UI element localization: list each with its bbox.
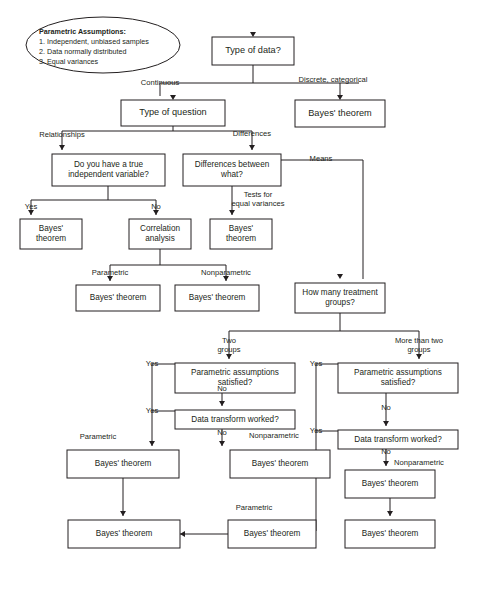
arrowhead (383, 461, 389, 466)
edge-label-nonparametric_two: Nonparametric (249, 431, 299, 440)
assumptions-heading: Parametric Assumptions: (39, 27, 126, 36)
node-data_transform_two: Data transform worked? (175, 410, 295, 429)
edge-label-parametric_final: Parametric (236, 503, 273, 512)
edge-label-more_than_two: More than two (395, 336, 443, 345)
node-label-how_many_groups: How many treatment (302, 288, 378, 297)
node-bayes_final_parametric: Bayes' theorem (228, 520, 316, 548)
arrowhead (219, 401, 225, 406)
node-label-param_assum_more: satisfied? (381, 378, 416, 387)
node-label-differences_between: what? (220, 170, 243, 179)
node-param_assum_two: Parametric assumptionssatisfied? (175, 363, 295, 393)
arrowhead (337, 274, 343, 279)
node-type_of_question: Type of question (121, 100, 225, 126)
node-bayes_corr_parametric: Bayes' theorem (76, 285, 160, 311)
node-bayes_corr_nonparam: Bayes' theorem (175, 285, 259, 311)
node-label-correlation_analysis: analysis (145, 234, 175, 243)
node-bayes_yes_indep: Bayes'theorem (20, 219, 82, 249)
node-label-true_independent_var: Do you have a true (74, 160, 144, 169)
node-how_many_groups: How many treatmentgroups? (295, 283, 385, 313)
edge-label-relationships: Relationships (39, 130, 85, 139)
assumptions-line-2: 2. Data normally distributed (39, 47, 127, 56)
node-bayes_final_left: Bayes' theorem (68, 520, 180, 548)
node-label-bayes_final_parametric: Bayes' theorem (244, 529, 301, 538)
node-label-data_transform_two: Data transform worked? (191, 415, 279, 424)
node-bayes_two_parametric: Bayes' theorem (67, 450, 179, 478)
arrowhead (170, 95, 176, 100)
node-label-type_of_data: Type of data? (225, 45, 281, 55)
arrowhead (383, 421, 389, 426)
edge-label-no_two_trans: No (217, 428, 227, 437)
edge-label-yes_indep: Yes (25, 202, 38, 211)
arrowhead (120, 511, 126, 516)
edge-label-yes_two_trans: Yes (146, 406, 159, 415)
flowchart-root: Type of data?Bayes' theoremType of quest… (0, 0, 479, 596)
node-bayes_discrete: Bayes' theorem (295, 100, 385, 127)
node-bayes_equal_var: Bayes'theorem (210, 219, 272, 249)
arrowhead (180, 531, 185, 537)
edge-label-parametric_corr: Parametric (92, 268, 129, 277)
edge-label-no_indep: No (151, 202, 161, 211)
node-true_independent_var: Do you have a trueindependent variable? (52, 154, 165, 186)
node-label-bayes_corr_parametric: Bayes' theorem (90, 293, 147, 302)
node-label-bayes_yes_indep: theorem (36, 234, 66, 243)
node-label-true_independent_var: independent variable? (68, 170, 149, 179)
edge-label-no_more_param: No (381, 403, 391, 412)
arrowhead (149, 441, 155, 446)
node-bayes_more_nonparam: Bayes' theorem (345, 470, 435, 498)
node-param_assum_more: Parametric assumptionssatisfied? (338, 363, 458, 393)
node-bayes_two_nonparam: Bayes' theorem (230, 450, 330, 478)
edge-label-tests_equal_var: Tests for (244, 190, 273, 199)
edge-label-more_than_two: groups (407, 345, 430, 354)
arrowhead (249, 145, 255, 150)
edge-label-nonparametric_more: Nonparametric (394, 458, 444, 467)
node-label-bayes_two_parametric: Bayes' theorem (95, 459, 152, 468)
edge-label-means: Means (310, 154, 333, 163)
node-label-bayes_final_left: Bayes' theorem (96, 529, 153, 538)
node-bayes_final_posthoc: Bayes' theorem (345, 520, 435, 548)
arrowhead (387, 511, 393, 516)
edge-label-nonparametric_corr: Nonparametric (201, 268, 251, 277)
node-label-bayes_final_posthoc: Bayes' theorem (362, 529, 419, 538)
node-label-data_transform_more: Data transform worked? (354, 435, 442, 444)
edge-label-parametric_two: Parametric (80, 432, 117, 441)
node-label-differences_between: Differences between (195, 160, 270, 169)
node-differences_between: Differences betweenwhat? (183, 154, 281, 186)
node-label-bayes_equal_var: Bayes' (229, 224, 254, 233)
node-label-bayes_corr_nonparam: Bayes' theorem (189, 293, 246, 302)
edge-label-continuous: Continuous (141, 78, 180, 87)
edge-label-no_more_trans: No (381, 447, 391, 456)
node-label-bayes_equal_var: theorem (226, 234, 256, 243)
node-label-how_many_groups: groups? (325, 298, 355, 307)
arrowhead (250, 32, 256, 37)
assumptions-line-3: 3. Equal variances (39, 57, 99, 66)
node-data_transform_more: Data transform worked? (338, 430, 458, 449)
edge-label-differences: Differences (233, 129, 271, 138)
arrowhead (226, 354, 232, 359)
node-type_of_data: Type of data? (212, 37, 294, 65)
edge-label-yes_more_param: Yes (310, 359, 323, 368)
edge-label-yes_two_param: Yes (146, 359, 159, 368)
assumptions-line-1: 1. Independent, unbiased samples (39, 37, 149, 46)
arrowhead (219, 441, 225, 446)
arrowhead (337, 95, 343, 100)
node-label-bayes_more_nonparam: Bayes' theorem (362, 479, 419, 488)
node-label-param_assum_two: Parametric assumptions (191, 368, 279, 377)
edge-label-tests_equal_var: equal variances (231, 199, 284, 208)
node-label-bayes_discrete: Bayes' theorem (308, 108, 372, 118)
node-label-type_of_question: Type of question (139, 107, 206, 117)
node-label-correlation_analysis: Correlation (140, 224, 180, 233)
node-label-param_assum_more: Parametric assumptions (354, 368, 442, 377)
arrowhead (59, 145, 65, 150)
edge-label-discrete: Discrete, categorical (299, 75, 368, 84)
nodes-layer: Type of data?Bayes' theoremType of quest… (20, 37, 458, 548)
edge-label-two_groups: Two (222, 336, 236, 345)
flowchart-canvas: Type of data?Bayes' theoremType of quest… (0, 0, 479, 596)
node-label-bayes_two_nonparam: Bayes' theorem (252, 459, 309, 468)
parametric-assumptions-note: Parametric Assumptions: 1. Independent, … (26, 17, 180, 73)
arrowhead (229, 210, 235, 215)
node-label-bayes_yes_indep: Bayes' (39, 224, 64, 233)
edge-label-two_groups: groups (217, 345, 240, 354)
node-correlation_analysis: Correlationanalysis (129, 219, 191, 249)
edge-label-yes_more_trans: Yes (310, 426, 323, 435)
edge-label-no_two_param: No (217, 384, 227, 393)
